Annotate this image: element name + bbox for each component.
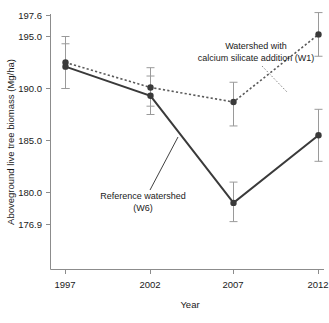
error-bars-w1 xyxy=(62,13,323,126)
annotation-w6-line2: (W6) xyxy=(133,203,153,213)
data-point xyxy=(147,93,153,99)
biomass-line-chart: 197.6 195.0 190.0 185.0 180.0 176.9 Abov… xyxy=(0,0,329,323)
series-line-w6 xyxy=(66,67,319,203)
x-axis-title: Year xyxy=(180,299,199,310)
y-axis-title: Aboveground live tree biomass (Mg/ha) xyxy=(5,59,16,225)
annotation-w6: Reference watershed (W6) xyxy=(100,137,186,213)
data-point xyxy=(62,63,68,69)
x-tick-label: 2002 xyxy=(139,279,160,290)
annotation-w6-line1: Reference watershed xyxy=(100,191,186,201)
data-point xyxy=(230,200,236,206)
data-point xyxy=(230,99,236,105)
annotation-w6-leader xyxy=(150,137,178,190)
x-tick-label: 1997 xyxy=(54,279,75,290)
y-tick-label: 176.9 xyxy=(18,219,42,230)
x-tick-marks xyxy=(66,270,319,275)
annotation-w1-line2: calcium silicate addition (W1) xyxy=(198,53,315,63)
y-tick-marks xyxy=(46,16,51,225)
data-point xyxy=(315,132,321,138)
y-tick-label: 190.0 xyxy=(18,83,42,94)
data-point xyxy=(147,84,153,90)
y-tick-label: 197.6 xyxy=(18,10,42,21)
data-point xyxy=(315,31,321,37)
series-markers-w6 xyxy=(62,63,321,206)
y-tick-labels: 197.6 195.0 190.0 185.0 180.0 176.9 xyxy=(18,10,42,230)
x-tick-label: 2012 xyxy=(307,279,328,290)
y-tick-label: 180.0 xyxy=(18,187,42,198)
chart-canvas: 197.6 195.0 190.0 185.0 180.0 176.9 Abov… xyxy=(0,0,329,323)
annotation-w1: Watershed with calcium silicate addition… xyxy=(198,41,315,92)
y-tick-label: 185.0 xyxy=(18,135,42,146)
x-tick-label: 2007 xyxy=(222,279,243,290)
x-tick-labels: 1997 2002 2007 2012 xyxy=(54,279,328,290)
annotation-w1-line1: Watershed with xyxy=(225,41,287,51)
y-tick-label: 195.0 xyxy=(18,31,42,42)
